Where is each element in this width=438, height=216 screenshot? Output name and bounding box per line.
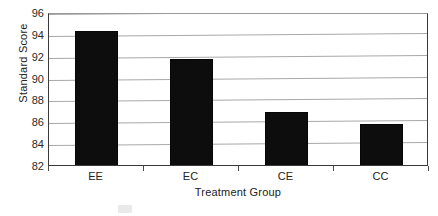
bar — [265, 112, 308, 166]
y-axis-tick-label: 94 — [16, 29, 44, 41]
bar-chart-figure: Standard Score 8284868890929496 EEECCECC… — [0, 0, 438, 216]
y-axis-tick-label: 96 — [16, 7, 44, 19]
x-axis-tick-label: EE — [88, 170, 103, 182]
y-axis-tick-labels: 8284868890929496 — [16, 13, 44, 166]
y-axis-tick-label: 90 — [16, 73, 44, 85]
y-axis-tick-label: 82 — [16, 160, 44, 172]
bar — [75, 31, 118, 166]
x-axis-title: Treatment Group — [48, 186, 428, 198]
y-axis-tick-label: 92 — [16, 51, 44, 63]
bar-series — [49, 14, 427, 165]
bar — [170, 59, 213, 166]
plot-area — [48, 13, 428, 166]
x-axis-tick-labels: EEECCECC — [48, 170, 428, 186]
scan-artifact — [118, 205, 132, 213]
x-axis-tick-label: CC — [373, 170, 389, 182]
x-axis-tick-label: CE — [278, 170, 293, 182]
y-axis-tick-label: 84 — [16, 138, 44, 150]
bar — [360, 124, 403, 166]
x-axis-tick-mark — [428, 166, 429, 171]
y-axis-tick-label: 88 — [16, 94, 44, 106]
x-axis-tick-label: EC — [183, 170, 198, 182]
y-axis-tick-label: 86 — [16, 116, 44, 128]
